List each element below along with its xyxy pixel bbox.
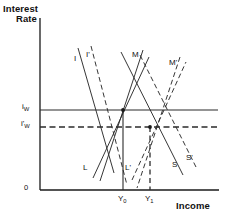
plot-area	[0, 0, 225, 220]
curve-s	[121, 52, 183, 175]
curves-group	[78, 46, 196, 188]
equilibrium-point-e0	[121, 108, 125, 112]
axes-group	[40, 18, 219, 190]
equilibrium-point-e1	[148, 125, 152, 129]
curve-l-prime	[132, 62, 186, 180]
curve-l	[93, 57, 149, 178]
equilibrium-points-group	[121, 108, 152, 129]
is-lm-diagram: Interest Rate Income 0 iW i'W Y0 Y1 I I'…	[0, 0, 225, 220]
curve-s-prime	[140, 55, 196, 167]
level-lines-group	[40, 110, 218, 190]
